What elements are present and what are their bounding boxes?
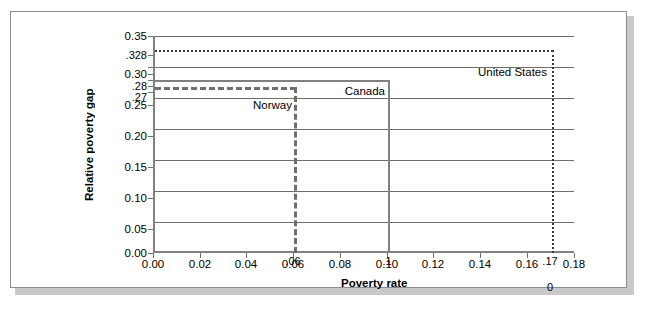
y-tick-label-0.05: 0.05 xyxy=(125,224,147,236)
gridline-0.10 xyxy=(155,191,574,192)
plot-area: United States Canada Norway xyxy=(153,36,574,253)
y-axis-tick-labels: 0.35 .328 0.30 .28 .27 0.25 0.20 0.15 0.… xyxy=(11,12,153,253)
x-tick-label-0.18: 0.18 xyxy=(563,258,585,270)
y-tick-label-0.10: 0.10 xyxy=(125,193,147,205)
y-tick-label-0.25: 0.25 xyxy=(125,100,147,112)
series-line-norway-horizontal xyxy=(155,87,296,90)
figure-frame: Relative poverty gap 0.35 .328 0.30 .28 … xyxy=(10,11,627,288)
y-tick-label-0.328: .328 xyxy=(126,50,147,62)
series-line-united-states-vertical xyxy=(552,50,554,253)
x-tick-label-0.12: 0.12 xyxy=(422,258,444,270)
series-line-united-states-horizontal xyxy=(155,50,553,52)
gridline-0.20 xyxy=(155,129,574,130)
x-tick-label-0.16: 0.16 xyxy=(516,258,538,270)
gridline-0.35 xyxy=(155,36,574,37)
y-tick-label-0.20: 0.20 xyxy=(125,131,147,143)
x-tick-label-0.14: 0.14 xyxy=(469,258,491,270)
x-tick-label-0.06: 0.06 xyxy=(282,258,304,270)
x-tick-label-0.08: 0.08 xyxy=(329,258,351,270)
series-line-norway-vertical xyxy=(294,87,297,253)
x-tick-label-0.04: 0.04 xyxy=(235,258,257,270)
series-label-norway: Norway xyxy=(253,99,292,111)
x-tick-label-0.02: 0.02 xyxy=(189,258,211,270)
series-line-canada-vertical xyxy=(388,80,390,253)
gridline-0.15 xyxy=(155,160,574,161)
x-tick-label-0.00: 0.00 xyxy=(142,258,164,270)
y-tick-label-0.30: 0.30 xyxy=(125,69,147,81)
x-axis-tick-labels: 0.00 0.02 0.04 0.06 0.08 0.10 0.12 0.14 … xyxy=(153,258,574,278)
y-tick-label-0.35: 0.35 xyxy=(125,31,147,43)
x-tick-label-0.10: 0.10 xyxy=(376,258,398,270)
x-axis-title: Poverty rate xyxy=(341,277,407,289)
gridline-0.25 xyxy=(155,98,574,99)
series-line-canada-horizontal xyxy=(155,80,390,82)
gridline-0.05 xyxy=(155,222,574,223)
x-callout-0.170-continued: 0 xyxy=(547,282,553,293)
y-tick-label-0.15: 0.15 xyxy=(125,162,147,174)
series-label-united-states: United States xyxy=(478,66,547,78)
series-label-canada: Canada xyxy=(345,85,385,97)
